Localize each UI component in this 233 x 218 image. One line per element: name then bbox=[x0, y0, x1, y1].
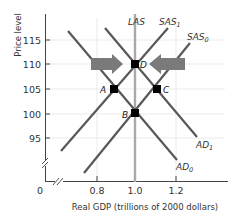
x-tick-1-0: 1.0 bbox=[127, 185, 142, 196]
y-tick-115: 115 bbox=[23, 35, 41, 46]
ad1-label: AD1 bbox=[195, 140, 213, 152]
point-d bbox=[131, 60, 139, 68]
las-label: LAS bbox=[128, 17, 145, 27]
arrow-right-icon bbox=[91, 54, 123, 74]
x-tick-0-8: 0.8 bbox=[89, 185, 104, 196]
x-axis-label: Real GDP (trillions of 2000 dollars) bbox=[72, 202, 218, 212]
ad0-label: AD0 bbox=[175, 162, 193, 174]
aggregate-supply-demand-chart: D A C B LAS SAS1 SAS0 AD1 AD0 115 110 10… bbox=[0, 0, 233, 218]
point-b bbox=[131, 109, 139, 117]
point-c bbox=[153, 85, 161, 93]
label-d: D bbox=[140, 60, 147, 70]
sas0-label: SAS0 bbox=[187, 32, 209, 44]
y-axis-label: Price level bbox=[13, 13, 23, 57]
x-tick-origin: 0 bbox=[37, 185, 43, 196]
label-c: C bbox=[163, 85, 170, 95]
label-b: B bbox=[122, 110, 128, 120]
ad1-curve bbox=[105, 28, 197, 137]
point-a bbox=[110, 85, 118, 93]
sas1-label: SAS1 bbox=[159, 17, 181, 29]
y-tick-110: 110 bbox=[23, 59, 41, 70]
x-tick-1-2: 1.2 bbox=[168, 185, 183, 196]
curves bbox=[61, 28, 197, 173]
y-tick-105: 105 bbox=[23, 84, 41, 95]
y-tick-100: 100 bbox=[23, 109, 41, 120]
label-a: A bbox=[99, 85, 106, 95]
y-tick-95: 95 bbox=[29, 133, 41, 144]
